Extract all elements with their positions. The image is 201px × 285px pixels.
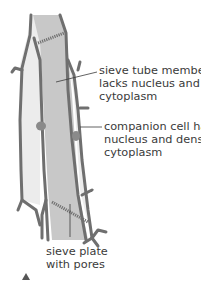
label-line: lacks nucleus and (99, 77, 201, 90)
nucleus-right (72, 131, 80, 141)
label-line: cytoplasm (99, 90, 201, 103)
label-companion-cell: companion cell has nucleus and dense cyt… (104, 120, 201, 159)
label-line: cytoplasm (104, 146, 201, 159)
label-line: companion cell has (104, 120, 201, 133)
label-sieve-plate: sieve plate with pores (46, 245, 108, 271)
triangle-marker-icon (22, 273, 30, 280)
label-sieve-tube-member: sieve tube member lacks nucleus and cyto… (99, 64, 201, 103)
label-line: sieve tube member (99, 64, 201, 77)
label-line: with pores (46, 258, 108, 271)
nucleus-left (36, 122, 46, 131)
label-line: nucleus and dense (104, 133, 201, 146)
label-line: sieve plate (46, 245, 108, 258)
